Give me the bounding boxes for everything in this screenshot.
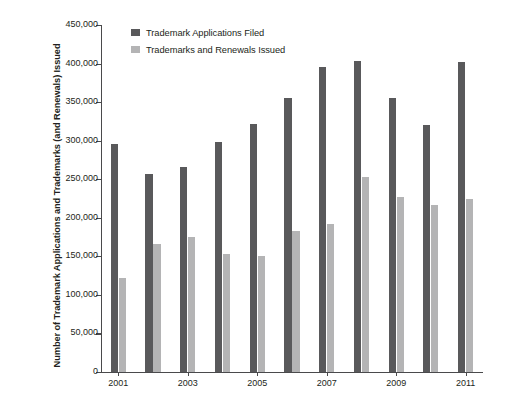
x-tick-mark xyxy=(257,372,258,376)
x-tick-label: 2001 xyxy=(108,378,128,388)
bar-group xyxy=(250,25,265,372)
legend-item: Trademark Applications Filed xyxy=(131,25,285,40)
bar xyxy=(423,125,430,372)
bar xyxy=(180,167,187,372)
bar xyxy=(223,254,230,372)
y-tick-label: 200,000 xyxy=(65,212,98,222)
y-tick-label: 0 xyxy=(93,366,98,376)
bar xyxy=(466,199,473,372)
bar-group xyxy=(458,25,473,372)
trademark-bar-chart: Number of Trademark Applications and Tra… xyxy=(0,0,523,412)
bar xyxy=(284,98,291,372)
bar-group xyxy=(423,25,438,372)
bar-group xyxy=(319,25,334,372)
legend-item: Trademarks and Renewals Issued xyxy=(131,42,285,57)
y-axis-title: Number of Trademark Applications and Tra… xyxy=(52,21,63,391)
bar xyxy=(145,174,152,372)
bar xyxy=(119,278,126,372)
x-tick-mark xyxy=(396,372,397,376)
x-tick-mark xyxy=(188,372,189,376)
bar-group xyxy=(284,25,299,372)
bar xyxy=(397,197,404,372)
bar xyxy=(354,61,361,372)
bar xyxy=(215,142,222,372)
bar xyxy=(250,124,257,372)
y-tick-label: 450,000 xyxy=(65,19,98,29)
legend-swatch xyxy=(131,46,140,53)
chart-legend: Trademark Applications FiledTrademarks a… xyxy=(131,25,285,59)
bar-group xyxy=(111,25,126,372)
y-tick-label: 300,000 xyxy=(65,135,98,145)
x-tick-label: 2005 xyxy=(247,378,267,388)
y-axis-line xyxy=(101,25,102,372)
x-tick-mark xyxy=(327,372,328,376)
x-axis-line xyxy=(101,372,483,373)
bar-group xyxy=(180,25,195,372)
bar xyxy=(327,224,334,372)
y-tick-label: 150,000 xyxy=(65,250,98,260)
bar xyxy=(362,177,369,372)
y-tick-label: 250,000 xyxy=(65,173,98,183)
bar xyxy=(111,144,118,372)
y-tick-label: 350,000 xyxy=(65,96,98,106)
bar xyxy=(258,256,265,372)
y-tick-label: 50,000 xyxy=(70,327,98,337)
legend-label: Trademarks and Renewals Issued xyxy=(146,45,285,55)
bar-group xyxy=(354,25,369,372)
bar xyxy=(292,231,299,372)
x-tick-label: 2009 xyxy=(386,378,406,388)
bar xyxy=(431,205,438,372)
x-tick-mark xyxy=(466,372,467,376)
legend-label: Trademark Applications Filed xyxy=(146,28,264,38)
y-tick-label: 400,000 xyxy=(65,58,98,68)
x-tick-label: 2007 xyxy=(317,378,337,388)
y-tick-label: 100,000 xyxy=(65,289,98,299)
bar xyxy=(319,67,326,372)
bar xyxy=(188,237,195,372)
bar-group xyxy=(215,25,230,372)
legend-swatch xyxy=(131,29,140,36)
x-tick-mark xyxy=(118,372,119,376)
x-tick-label: 2003 xyxy=(178,378,198,388)
x-tick-label: 2011 xyxy=(456,378,475,388)
bar xyxy=(153,244,160,372)
bar xyxy=(458,62,465,372)
bar-group xyxy=(145,25,160,372)
plot-area: 050,000100,000150,000200,000250,000300,0… xyxy=(101,25,483,372)
bar xyxy=(389,98,396,372)
bar-group xyxy=(389,25,404,372)
